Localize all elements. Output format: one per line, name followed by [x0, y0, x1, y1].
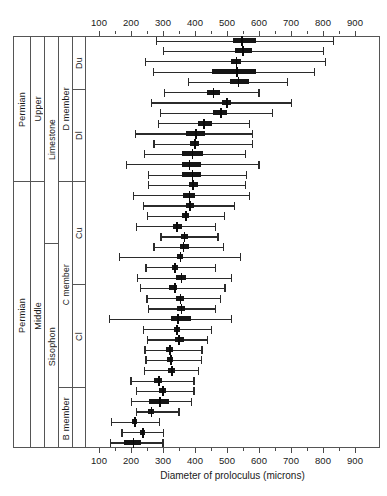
tickmark [131, 448, 132, 453]
boxplot-row [85, 160, 380, 170]
tick-label-300: 300 [148, 17, 178, 28]
whisker-cap-max [162, 439, 163, 447]
median-marker [213, 88, 215, 98]
tickmark [323, 448, 324, 453]
whisker-cap-min [148, 181, 149, 189]
whisker-cap-max [258, 161, 259, 169]
strat-label: Cl [74, 332, 84, 341]
whisker-cap-min [156, 37, 157, 45]
boxplot-row [85, 149, 380, 159]
tickmark [195, 448, 196, 453]
whisker-cap-min [143, 202, 144, 210]
strat-column-series: UpperMiddle [31, 37, 45, 447]
boxplot-row [85, 263, 380, 273]
tick-label-600: 600 [244, 17, 274, 28]
whisker-cap-min [131, 398, 132, 406]
minor-tickmark [339, 448, 340, 451]
whisker-cap-max [234, 202, 235, 210]
quartile-box [182, 162, 201, 167]
whisker-line [109, 319, 231, 320]
median-marker [203, 119, 205, 129]
strat-label: Middle [33, 302, 43, 330]
median-marker [238, 77, 240, 87]
median-marker [174, 263, 176, 273]
boxplot-series-layer [85, 36, 380, 448]
median-marker [226, 98, 228, 108]
strat-cell-sisophon: Sisophon [45, 243, 58, 449]
tickmark [291, 448, 292, 453]
whisker-line [153, 144, 252, 145]
whisker-cap-max [201, 346, 202, 354]
boxplot-row [85, 98, 380, 108]
whisker-cap-max [333, 37, 334, 45]
boxplot-row [85, 77, 380, 87]
median-marker [180, 294, 182, 304]
whisker-cap-max [240, 253, 241, 261]
whisker-cap-max [287, 78, 288, 86]
whisker-cap-min [158, 120, 159, 128]
strat-column-system: PermianPermian [14, 37, 31, 447]
boxplot-row [85, 345, 380, 355]
tickmark [259, 448, 260, 453]
whisker-cap-max [215, 264, 216, 272]
median-marker [171, 366, 173, 376]
proloculus-diameter-boxplot-figure: 100200300400500600700800900 PermianPermi… [0, 0, 387, 496]
boxplot-row [85, 67, 380, 77]
tick-label-900: 900 [340, 455, 370, 466]
boxplot-row [85, 119, 380, 129]
whisker-cap-min [130, 377, 131, 385]
median-marker [195, 129, 197, 139]
boxplot-row [85, 88, 380, 98]
whisker-cap-max [163, 429, 164, 437]
whisker-cap-max [325, 58, 326, 66]
whisker-cap-min [160, 233, 161, 241]
whisker-cap-min [145, 58, 146, 66]
strat-cell-b-member: B member [59, 387, 72, 449]
tick-label-800: 800 [308, 17, 338, 28]
whisker-cap-max [245, 150, 246, 158]
tickmark [355, 448, 356, 453]
minor-tickmark [339, 31, 340, 34]
whisker-cap-min [153, 68, 154, 76]
tick-label-600: 600 [244, 455, 274, 466]
boxplot-row [85, 211, 380, 221]
strat-cell-dl: Dl [73, 89, 85, 182]
boxplot-row [85, 222, 380, 232]
whisker-cap-max [193, 387, 194, 395]
median-marker [158, 376, 160, 386]
median-marker [142, 428, 144, 438]
boxplot-row [85, 252, 380, 262]
whisker-cap-min [111, 418, 112, 426]
whisker-cap-min [163, 47, 164, 55]
whisker-cap-min [136, 387, 137, 395]
whisker-cap-max [215, 305, 216, 313]
boxplot-row [85, 108, 380, 118]
median-marker [192, 149, 194, 159]
median-marker [241, 36, 243, 46]
whisker-cap-min [145, 356, 146, 364]
minor-tickmark [211, 31, 212, 34]
median-marker [183, 242, 185, 252]
median-marker [170, 355, 172, 365]
boxplot-row [85, 335, 380, 345]
median-marker [159, 397, 161, 407]
whisker-cap-max [159, 418, 160, 426]
whisker-cap-max [191, 398, 192, 406]
tickmark [99, 448, 100, 453]
strat-label: Dl [74, 131, 84, 140]
median-marker [178, 335, 180, 345]
whisker-cap-max [178, 408, 179, 416]
minor-tickmark [307, 31, 308, 34]
strat-cell-upper: Upper [31, 37, 44, 181]
whisker-cap-min [148, 305, 149, 313]
whisker-cap-max [323, 47, 324, 55]
strat-cell-permian: Permian [14, 181, 30, 449]
tick-label-500: 500 [212, 455, 242, 466]
tick-label-500: 500 [212, 17, 242, 28]
whisker-cap-max [258, 89, 259, 97]
boxplot-row [85, 376, 380, 386]
boxplot-row [85, 283, 380, 293]
whisker-cap-min [126, 161, 127, 169]
median-marker [176, 325, 178, 335]
x-axis-title: Diameter of proloculus (microns) [85, 470, 380, 481]
